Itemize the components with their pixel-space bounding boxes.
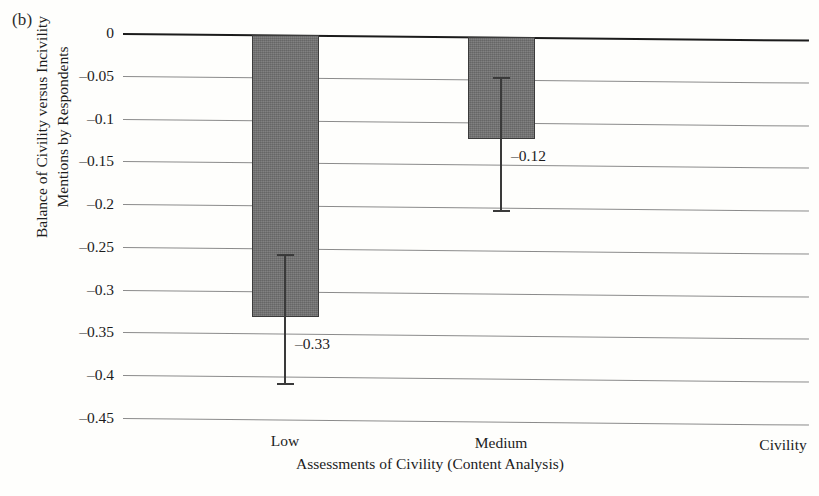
error-bar-medium (491, 77, 511, 212)
gridline (123, 247, 809, 255)
y-axis-tick-label: –0.4 (36, 366, 123, 384)
gridline (123, 76, 809, 84)
y-axis-tick-label: –0.45 (36, 409, 123, 427)
gridline (123, 204, 809, 212)
y-axis-tick-label: –0.25 (36, 238, 123, 256)
x-axis-tick-label-medium: Medium (475, 434, 528, 452)
gridline (123, 418, 809, 426)
y-axis-tick-label: –0.05 (36, 67, 123, 85)
zero-line (123, 33, 809, 42)
error-bar-cap-upper (277, 254, 294, 256)
error-bar-cap-lower (277, 383, 294, 385)
data-label-low: –0.33 (295, 335, 330, 353)
gridline (123, 332, 809, 340)
y-axis-tick-labels: 0–0.05–0.1–0.15–0.2–0.25–0.3–0.35–0.4–0.… (0, 33, 123, 418)
x-axis-tick-label-civility: Civility (759, 436, 806, 454)
y-axis-tick-label: –0.3 (36, 281, 123, 299)
gridline (123, 161, 809, 169)
gridline (123, 375, 809, 383)
gridlines (123, 33, 809, 418)
error-bar-low (275, 254, 295, 386)
error-bar-cap-lower (493, 210, 510, 212)
error-bar-cap-upper (493, 77, 510, 79)
data-label-medium: –0.12 (511, 147, 546, 165)
x-axis-title: Assessments of Civility (Content Analysi… (296, 455, 564, 473)
chart-figure: (b) Balance of Civility versus Incivilit… (0, 0, 819, 496)
plot-area: –0.33–0.12 (123, 33, 809, 418)
y-axis-tick-label: –0.15 (36, 152, 123, 170)
y-axis-tick-label: –0.35 (36, 323, 123, 341)
y-axis-tick-label: –0.2 (36, 195, 123, 213)
error-bar-stem (284, 254, 286, 386)
gridline (123, 119, 809, 127)
x-axis-tick-label-low: Low (271, 432, 299, 450)
error-bar-stem (500, 77, 502, 212)
gridline (123, 290, 809, 298)
y-axis-tick-label: –0.1 (36, 110, 123, 128)
y-axis-tick-label: 0 (36, 24, 123, 42)
